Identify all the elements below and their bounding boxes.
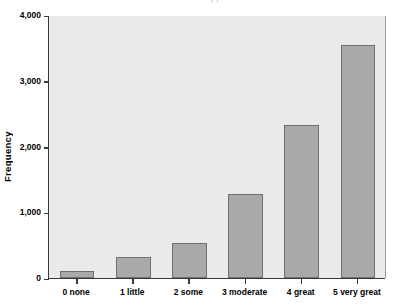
bar [172, 243, 207, 278]
x-tick-mark [188, 279, 190, 284]
y-tick-mark [44, 213, 49, 215]
y-tick-label: 3,000 [20, 76, 41, 86]
x-tick-mark [132, 279, 134, 284]
plot-inner: 01,0002,0003,0004,000 [49, 16, 385, 278]
x-tick-label: 0 none [62, 287, 89, 297]
y-tick-label: 1,000 [20, 207, 41, 217]
frequency-bar-chart: pp Frequency 01,0002,0003,0004,000 0 non… [0, 0, 404, 306]
x-tick-label: 2 some [174, 287, 203, 297]
x-tick-label: 5 very great [333, 287, 381, 297]
plot-area: 01,0002,0003,0004,000 [48, 16, 385, 279]
bar [228, 194, 263, 278]
x-tick-label: 3 moderate [222, 287, 267, 297]
x-tick-mark [357, 279, 359, 284]
bar [60, 271, 95, 278]
x-tick-label: 4 great [287, 287, 315, 297]
bar [116, 257, 151, 278]
y-tick-label: 2,000 [20, 142, 41, 152]
x-tick-mark [245, 279, 247, 284]
y-tick-mark [44, 81, 49, 83]
y-tick-mark [44, 147, 49, 149]
y-tick-mark [44, 16, 49, 18]
x-tick-mark [76, 279, 78, 284]
y-tick-label: 4,000 [20, 10, 41, 20]
x-tick-mark [301, 279, 303, 284]
y-tick-mark [44, 279, 49, 281]
y-tick-label: 0 [36, 273, 41, 283]
y-axis-title: Frequency [2, 112, 16, 202]
bar [341, 45, 376, 278]
clipped-chart-title: pp [48, 0, 385, 3]
bar [284, 125, 319, 278]
x-tick-label: 1 little [120, 287, 145, 297]
